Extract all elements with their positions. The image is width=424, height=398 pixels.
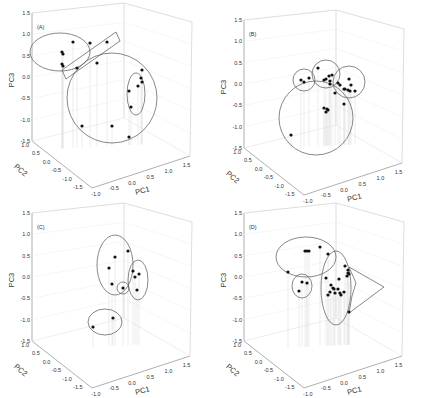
data-point — [332, 287, 335, 290]
data-point — [343, 264, 346, 267]
grid-line — [244, 222, 336, 234]
data-point — [75, 66, 78, 69]
z-tick-label: 1.5 — [234, 17, 242, 23]
pc1-tick-label: 1.0 — [165, 168, 173, 174]
box-edge — [336, 318, 402, 356]
box-edge — [336, 203, 404, 222]
pc2-tick-label: -1.5 — [73, 384, 82, 390]
data-point — [338, 83, 341, 86]
data-point — [88, 41, 91, 44]
data-point — [336, 287, 339, 290]
pc1-tick-label: 0.0 — [128, 380, 136, 386]
pc1-tick-label: -1.0 — [303, 391, 312, 397]
pc2-tick-label: -0.5 — [52, 367, 61, 373]
pc2-tick-label: -1.0 — [274, 183, 283, 189]
z-tick-label: -1.0 — [233, 317, 242, 323]
data-point — [286, 270, 289, 273]
pc2-tick-label: 0.5 — [244, 157, 252, 163]
data-point — [342, 102, 345, 105]
pc1-tick-label: -1.0 — [91, 391, 100, 397]
z-tick-label: 1.5 — [22, 210, 30, 216]
pc1-tick-label: 0.0 — [128, 180, 136, 186]
pc2-tick-label: -0.5 — [264, 174, 273, 180]
pc2-tick-label: -1.0 — [274, 376, 283, 382]
grid-line — [124, 222, 192, 244]
panel-d: 1.51.00.50.0-0.5-1.0-1.51.00.50.0-0.5-1.… — [219, 203, 404, 397]
panel-label: (B) — [249, 31, 257, 37]
grid-line — [244, 87, 336, 106]
data-point — [329, 283, 332, 286]
pc2-tick-label: 1.0 — [233, 149, 241, 155]
pc1-axis-line — [92, 356, 190, 388]
data-point — [110, 124, 113, 127]
data-point — [347, 310, 350, 313]
grid-line — [124, 241, 192, 266]
box-edge — [32, 118, 124, 141]
box-edge — [32, 318, 124, 341]
pc2-axis-title: PC2 — [12, 162, 29, 178]
pc1-tick-label: -1.0 — [91, 191, 100, 197]
pc1-axis-line — [304, 163, 402, 195]
grid-line — [336, 48, 404, 73]
grid-line — [336, 241, 404, 266]
grid-line — [124, 41, 192, 66]
data-point — [337, 277, 340, 280]
data-point — [136, 84, 139, 87]
data-point — [133, 275, 136, 278]
grid-line — [124, 261, 192, 290]
data-point — [135, 288, 138, 291]
panel-label: (D) — [249, 224, 257, 230]
data-point — [289, 133, 292, 136]
pc1-tick-label: 0.5 — [146, 174, 154, 180]
data-point — [328, 82, 331, 85]
z-tick-label: 1.0 — [234, 38, 242, 44]
grid-line — [244, 106, 336, 127]
z-axis-title: PC3 — [219, 80, 228, 95]
box-edge — [124, 203, 192, 222]
z-tick-label: 1.0 — [234, 231, 242, 237]
pc1-tick-label: 0.5 — [358, 181, 366, 187]
data-point — [342, 290, 345, 293]
z-tick-label: 0.0 — [234, 274, 242, 280]
data-point — [330, 73, 333, 76]
panel-label: (C) — [37, 224, 45, 230]
panel-b: 1.51.00.50.0-0.5-1.0-1.51.00.50.0-0.5-1.… — [219, 10, 404, 204]
box-edge — [244, 318, 336, 341]
z-tick-label: -0.5 — [21, 95, 30, 101]
pc2-tick-label: -1.5 — [73, 184, 82, 190]
pc2-tick-label: 0.0 — [255, 166, 263, 172]
grid-line — [336, 299, 404, 334]
pc1-tick-label: -0.5 — [321, 192, 330, 198]
data-point — [349, 83, 352, 86]
data-point — [345, 274, 348, 277]
grid-line — [336, 222, 404, 244]
data-point — [127, 135, 130, 138]
pc1-tick-label: 1.0 — [377, 175, 385, 181]
data-point — [305, 281, 308, 284]
pc1-tick-label: 1.5 — [395, 169, 403, 175]
z-tick-label: 0.5 — [234, 253, 242, 259]
data-point — [299, 78, 302, 81]
grid-line — [244, 280, 336, 299]
pc1-tick-label: 0.0 — [340, 380, 348, 386]
z-tick-label: 0.5 — [22, 253, 30, 259]
pc1-axis-title: PC1 — [346, 384, 362, 396]
box-edge — [244, 10, 336, 20]
pc2-axis-title: PC2 — [224, 169, 241, 185]
pc2-tick-label: -1.0 — [62, 176, 71, 182]
data-point — [307, 249, 310, 252]
group-rectangle — [62, 32, 120, 79]
z-tick-label: 0.5 — [22, 53, 30, 59]
grid-line — [32, 280, 124, 299]
group-ellipse — [127, 73, 145, 115]
pc2-tick-label: -1.5 — [285, 191, 294, 197]
figure-canvas: 1.51.00.50.0-0.5-1.0-1.51.00.50.0-0.5-1.… — [0, 0, 424, 398]
box-edge — [124, 318, 190, 356]
pc1-tick-label: 0.0 — [340, 187, 348, 193]
z-axis-title: PC3 — [7, 73, 16, 88]
data-point — [91, 325, 94, 328]
grid-line — [32, 80, 124, 99]
box-edge — [124, 3, 192, 22]
z-tick-label: -0.5 — [233, 102, 242, 108]
z-tick-label: -0.5 — [21, 295, 30, 301]
